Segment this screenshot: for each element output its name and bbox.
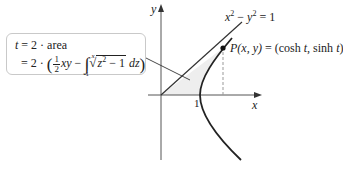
formula-line-2: = 2 · (12xy − ∫x1√z2 − 1 dz) (21, 54, 145, 75)
formula-line-1: t = 2 · area (15, 38, 67, 53)
point-p (220, 45, 225, 50)
x-axis-label: x (252, 99, 257, 111)
formula-callout: t = 2 · area = 2 · (12xy − ∫x1√z2 − 1 dz… (6, 33, 146, 75)
point-label: P(x, y) = (cosh t, sinh t) (230, 42, 343, 54)
shaded-area (161, 48, 223, 95)
integral-sign: ∫x1 (84, 54, 89, 74)
radicand: z2 − 1 (96, 55, 125, 70)
fraction-one-half: 12 (53, 55, 60, 74)
y-axis-label: y (151, 3, 156, 15)
curve-equation: x2 − y2 = 1 (225, 10, 275, 23)
y-axis-arrow (158, 4, 164, 12)
hyperbola-curve (200, 38, 241, 160)
callout-leader (146, 58, 190, 80)
tick-label-1: 1 (194, 98, 200, 109)
